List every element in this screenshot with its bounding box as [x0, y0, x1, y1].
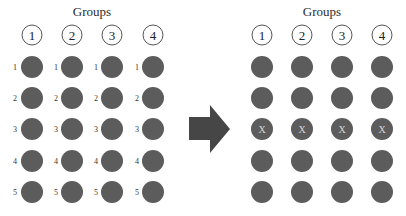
row-label: 1: [13, 63, 17, 72]
left-panel-groups-numbered: Groups 1 2 3 4 1 2 3 4 5 1 2 3 4 5 1 2 3…: [0, 0, 175, 216]
row-label: 5: [135, 188, 139, 197]
participant-dot: [142, 150, 164, 172]
row-label: 5: [94, 188, 98, 197]
participant-dot: [291, 87, 313, 109]
participant-dot: [61, 118, 83, 140]
row-label: 2: [54, 94, 58, 103]
row-label: 3: [13, 125, 17, 134]
participant-dot: [101, 56, 123, 78]
marked-participant-dot: X: [371, 118, 393, 140]
participant-dot: [251, 87, 273, 109]
row-label: 4: [135, 157, 139, 166]
row-label: 5: [13, 188, 17, 197]
participant-dot: [101, 118, 123, 140]
row-label: 3: [94, 125, 98, 134]
participant-dot: [61, 87, 83, 109]
participant-dot: [21, 56, 43, 78]
right-group-header-3: 3: [332, 25, 353, 46]
participant-dot: [251, 150, 273, 172]
participant-dot: [291, 56, 313, 78]
participant-dot: [251, 181, 273, 203]
row-label: 2: [94, 94, 98, 103]
participant-dot: [142, 181, 164, 203]
participant-dot: [331, 87, 353, 109]
participant-dot: [21, 87, 43, 109]
left-group-header-4: 4: [143, 25, 164, 46]
participant-dot: [251, 56, 273, 78]
row-label: 2: [13, 94, 17, 103]
participant-dot: [142, 87, 164, 109]
right-group-header-2: 2: [292, 25, 313, 46]
participant-dot: [21, 118, 43, 140]
participant-dot: [371, 87, 393, 109]
participant-dot: [331, 181, 353, 203]
participant-dot: [371, 181, 393, 203]
participant-dot: [371, 150, 393, 172]
row-label: 1: [54, 63, 58, 72]
left-groups-title: Groups: [73, 4, 111, 20]
participant-dot: [371, 56, 393, 78]
participant-dot: [61, 150, 83, 172]
row-label: 4: [54, 157, 58, 166]
row-label: 1: [135, 63, 139, 72]
row-label: 3: [135, 125, 139, 134]
row-label: 4: [94, 157, 98, 166]
participant-dot: [331, 56, 353, 78]
participant-dot: [331, 150, 353, 172]
participant-dot: [101, 87, 123, 109]
participant-dot: [291, 150, 313, 172]
row-label: 2: [135, 94, 139, 103]
right-arrow-icon: [189, 105, 231, 153]
participant-dot: [61, 181, 83, 203]
participant-dot: [291, 181, 313, 203]
participant-dot: [21, 181, 43, 203]
row-label: 1: [94, 63, 98, 72]
participant-dot: [61, 56, 83, 78]
participant-dot: [101, 181, 123, 203]
participant-dot: [101, 150, 123, 172]
right-groups-title: Groups: [303, 4, 341, 20]
left-group-header-3: 3: [102, 25, 123, 46]
left-group-header-1: 1: [22, 25, 43, 46]
marked-participant-dot: X: [331, 118, 353, 140]
row-label: 5: [54, 188, 58, 197]
right-group-header-1: 1: [252, 25, 273, 46]
participant-dot: [142, 118, 164, 140]
row-label: 3: [54, 125, 58, 134]
right-group-header-4: 4: [372, 25, 393, 46]
participant-dot: [142, 56, 164, 78]
left-group-header-2: 2: [62, 25, 83, 46]
marked-participant-dot: X: [251, 118, 273, 140]
right-panel-groups-marked: Groups 1 2 3 4 X X X X: [230, 0, 406, 216]
row-label: 4: [13, 157, 17, 166]
participant-dot: [21, 150, 43, 172]
marked-participant-dot: X: [291, 118, 313, 140]
